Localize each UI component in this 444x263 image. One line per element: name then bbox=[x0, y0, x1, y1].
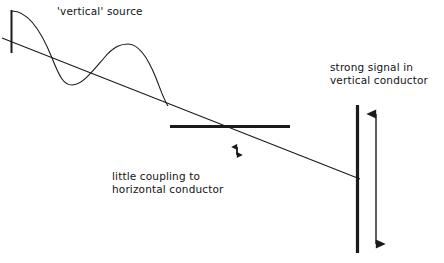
propagation-path-line bbox=[2, 38, 360, 179]
little-coupling-label-line1: little coupling to bbox=[112, 170, 200, 182]
strong-signal-label: strong signal invertical conductor bbox=[330, 61, 428, 87]
strong-signal-label-line2: vertical conductor bbox=[330, 74, 428, 86]
radiated-wave-path bbox=[12, 11, 168, 106]
little-coupling-label: little coupling tohorizontal conductor bbox=[112, 170, 224, 196]
little-coupling-label-line2: horizontal conductor bbox=[112, 183, 224, 195]
source-label: 'vertical' source bbox=[57, 5, 143, 18]
diagram-canvas bbox=[0, 0, 444, 263]
antenna-polarization-diagram: 'vertical' source strong signal invertic… bbox=[0, 0, 444, 263]
strong-signal-label-line1: strong signal in bbox=[330, 61, 413, 73]
